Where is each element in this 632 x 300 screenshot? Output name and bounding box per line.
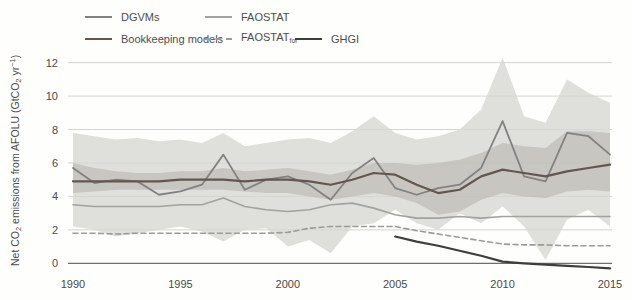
x-tick-label: 2010: [490, 278, 514, 290]
legend-item-faostat-for: FAOSTATfor: [205, 32, 298, 46]
legend-label: FAOSTATfor: [241, 31, 298, 47]
legend-item-bookkeeping-models: Bookkeeping models: [85, 32, 223, 46]
y-tick-label: 12: [46, 57, 58, 69]
legend-swatch-dgvms: [85, 16, 112, 18]
legend-swatch-faostat-for: [205, 38, 232, 40]
legend-item-ghgi: GHGI: [295, 32, 359, 46]
y-tick-label: 8: [52, 124, 58, 136]
legend-swatch-ghgi: [295, 38, 322, 40]
legend-swatch-bookkeeping-models: [85, 38, 112, 40]
y-tick-label: 4: [52, 190, 58, 202]
legend-item-faostat: FAOSTAT: [205, 10, 290, 24]
y-tick-label: 6: [52, 157, 58, 169]
x-tick-label: 1990: [61, 278, 85, 290]
y-tick-label: 0: [52, 257, 58, 269]
x-tick-label: 2015: [598, 278, 622, 290]
y-axis-label-part: emissions from AFOLU (GtCO: [9, 83, 21, 227]
y-axis-label-part: ): [9, 55, 21, 59]
legend-label: DGVMs: [121, 11, 160, 24]
legend-swatch-faostat: [205, 16, 232, 18]
y-axis-label-part: Net CO: [9, 231, 21, 266]
legend-label: GHGI: [331, 33, 359, 46]
y-tick-label: 2: [52, 224, 58, 236]
x-tick-label: 2000: [276, 278, 300, 290]
y-axis-label-part: −1: [8, 58, 17, 67]
y-axis-label: Net CO2 emissions from AFOLU (GtCO2 yr−1…: [8, 66, 24, 266]
y-axis-label-part: yr: [9, 67, 21, 79]
x-tick-label: 2005: [383, 278, 407, 290]
legend-label: FAOSTAT: [241, 11, 290, 24]
x-tick-label: 1995: [168, 278, 192, 290]
afolu-emissions-figure: 024681012199019952000200520102015 DGVMsF…: [0, 0, 632, 300]
y-axis-label-part: 2: [14, 227, 23, 231]
y-axis-label-part: 2: [14, 79, 23, 83]
y-tick-label: 10: [46, 90, 58, 102]
legend-item-dgvms: DGVMs: [85, 10, 160, 24]
